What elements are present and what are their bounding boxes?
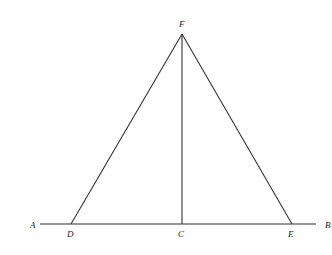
segment-fd: [71, 34, 182, 224]
label-b: B: [325, 220, 331, 230]
label-c: C: [178, 229, 185, 239]
label-e: E: [287, 229, 294, 239]
geometry-diagram: F A D C E B: [0, 0, 332, 255]
label-d: D: [66, 229, 74, 239]
label-a: A: [29, 220, 36, 230]
segment-fe: [182, 34, 292, 224]
label-f: F: [178, 19, 185, 29]
